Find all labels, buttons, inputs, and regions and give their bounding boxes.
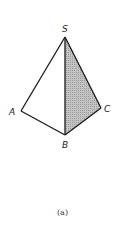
shaded-face-sbc [65, 37, 101, 135]
figure-caption: (a) [57, 208, 68, 217]
vertex-label-a: A [8, 107, 15, 117]
pyramid-diagram: S A B C (a) [0, 0, 122, 232]
edge-ab [21, 111, 65, 135]
vertex-label-b: B [62, 140, 68, 150]
vertex-label-c: C [104, 104, 111, 114]
vertex-label-s: S [62, 24, 68, 34]
edge-sa [21, 37, 65, 111]
pyramid-figure: S A B C (a) [0, 0, 122, 232]
